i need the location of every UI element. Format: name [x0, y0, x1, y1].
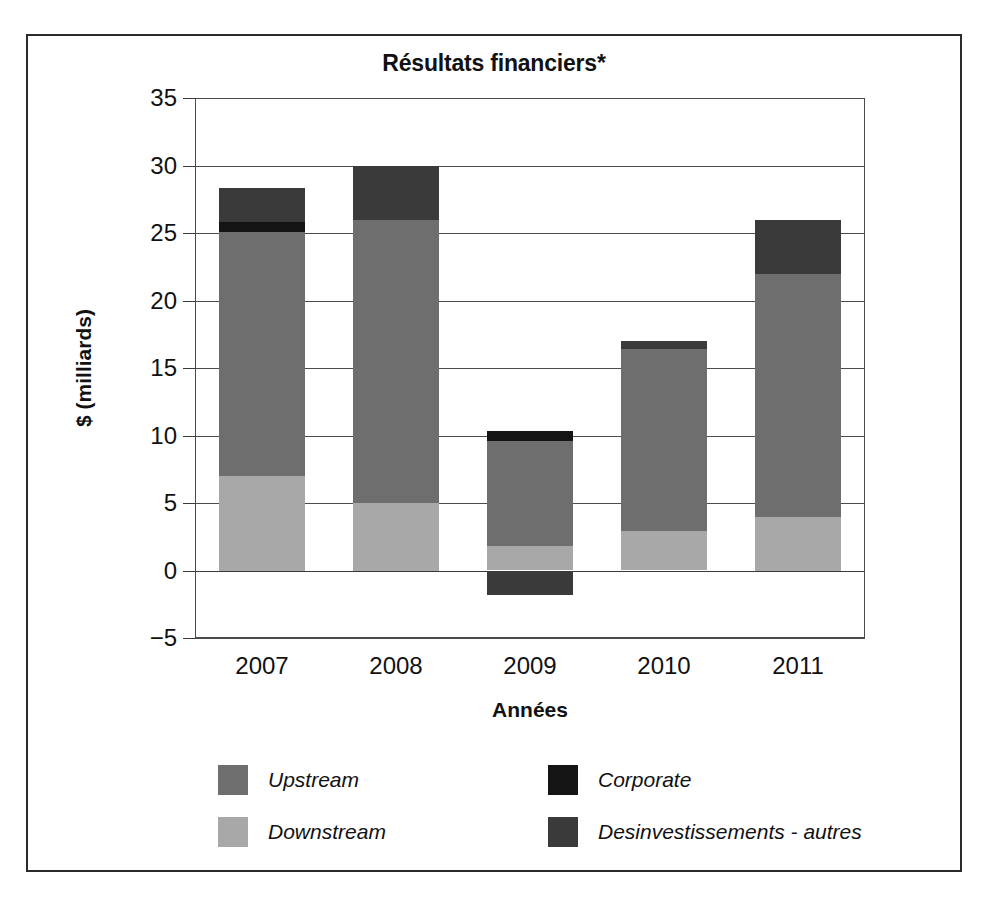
bar-2008[interactable] — [353, 98, 439, 638]
legend-label: Upstream — [268, 768, 359, 792]
y-tick-mark — [183, 98, 195, 99]
bar-segment-downstream — [219, 476, 305, 571]
legend-swatch-icon — [218, 817, 248, 847]
y-tick-mark — [183, 503, 195, 504]
legend-item[interactable]: Downstream — [218, 817, 548, 847]
bar-segment-upstream — [219, 232, 305, 476]
plot-area: 35302520151050−5 20072008200920102011 — [195, 98, 865, 638]
y-tick-mark — [183, 571, 195, 572]
chart-title: Résultats financiers* — [28, 50, 960, 77]
bar-segment-desinvestissements-autres — [219, 188, 305, 222]
y-tick-label: 30 — [150, 152, 177, 180]
bar-segment-desinvestissements-autres — [487, 571, 573, 595]
y-tick-mark — [183, 436, 195, 437]
bar-segment-upstream — [353, 220, 439, 504]
chart-figure: Résultats financiers* 35302520151050−5 2… — [26, 34, 962, 872]
bar-segment-downstream — [487, 546, 573, 570]
y-tick-mark — [183, 638, 195, 639]
bar-segment-corporate — [487, 431, 573, 440]
y-tick-label: 10 — [150, 422, 177, 450]
legend-item[interactable]: Desinvestissements - autres — [548, 817, 862, 847]
legend-item[interactable]: Corporate — [548, 765, 862, 795]
bar-segment-downstream — [755, 517, 841, 571]
x-tick-label: 2007 — [235, 652, 288, 680]
y-tick-label: 5 — [164, 489, 177, 517]
chart-legend: UpstreamCorporateDownstreamDesinvestisse… — [218, 754, 858, 858]
x-axis-label: Années — [195, 698, 865, 722]
bar-segment-upstream — [755, 274, 841, 517]
x-tick-label: 2008 — [369, 652, 422, 680]
bar-2011[interactable] — [755, 98, 841, 638]
y-axis-label: $ (milliards) — [72, 98, 100, 638]
bar-segment-corporate — [219, 222, 305, 231]
bar-segment-desinvestissements-autres — [353, 166, 439, 220]
bar-segment-upstream — [621, 349, 707, 531]
bar-2007[interactable] — [219, 98, 305, 638]
bar-segment-upstream — [487, 441, 573, 546]
legend-label: Desinvestissements - autres — [598, 820, 862, 844]
bar-segment-desinvestissements-autres — [755, 220, 841, 274]
gridline — [195, 638, 865, 639]
legend-item[interactable]: Upstream — [218, 765, 548, 795]
y-tick-label: −5 — [150, 624, 177, 652]
legend-label: Downstream — [268, 820, 386, 844]
y-tick-mark — [183, 368, 195, 369]
bar-segment-desinvestissements-autres — [621, 341, 707, 349]
y-tick-label: 20 — [150, 287, 177, 315]
bar-segment-downstream — [353, 503, 439, 571]
legend-swatch-icon — [548, 817, 578, 847]
y-tick-label: 0 — [164, 557, 177, 585]
y-tick-label: 25 — [150, 219, 177, 247]
legend-label: Corporate — [598, 768, 691, 792]
bar-2010[interactable] — [621, 98, 707, 638]
y-tick-mark — [183, 301, 195, 302]
legend-swatch-icon — [218, 765, 248, 795]
y-tick-label: 15 — [150, 354, 177, 382]
y-tick-mark — [183, 166, 195, 167]
bar-2009[interactable] — [487, 98, 573, 638]
x-tick-label: 2011 — [772, 652, 824, 680]
bar-segment-downstream — [621, 531, 707, 570]
legend-swatch-icon — [548, 765, 578, 795]
x-tick-label: 2009 — [503, 652, 556, 680]
y-tick-mark — [183, 233, 195, 234]
y-tick-label: 35 — [150, 84, 177, 112]
x-tick-label: 2010 — [637, 652, 690, 680]
